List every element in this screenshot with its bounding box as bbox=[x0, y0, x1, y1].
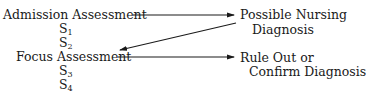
node-focus-assessment: Focus Assessment bbox=[16, 51, 131, 64]
node-s4: S4 bbox=[59, 79, 73, 93]
arrow-possible-to-focus bbox=[120, 23, 236, 50]
node-admission-assessment: Admission Assessment bbox=[3, 9, 147, 22]
node-possible-nursing: Possible Nursing bbox=[240, 9, 347, 22]
node-confirm-diagnosis: Confirm Diagnosis bbox=[249, 66, 366, 79]
node-rule-out: Rule Out or bbox=[240, 52, 314, 65]
node-diagnosis: Diagnosis bbox=[252, 24, 314, 37]
